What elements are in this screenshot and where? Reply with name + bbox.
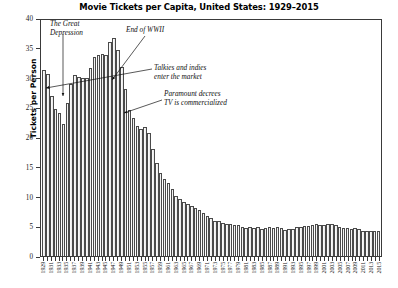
x-tick-mark bbox=[94, 257, 95, 261]
x-tick-mark bbox=[336, 257, 337, 261]
y-axis-title: Tickets per Person bbox=[29, 59, 38, 139]
x-label-slot: 2015 bbox=[377, 262, 381, 288]
x-tick-mark bbox=[250, 257, 251, 261]
x-tick-mark bbox=[133, 257, 134, 261]
y-tick-20: 20 bbox=[0, 133, 40, 143]
x-tick-mark bbox=[219, 257, 220, 261]
x-tick-mark bbox=[332, 257, 333, 261]
x-tick-mark bbox=[273, 257, 274, 261]
chart-title: Movie Tickets per Capita, United States:… bbox=[0, 2, 398, 12]
y-tick-0: 0 bbox=[0, 252, 40, 262]
x-tick-mark bbox=[191, 257, 192, 261]
y-tick-35: 35 bbox=[0, 44, 40, 54]
x-tick-mark bbox=[98, 257, 99, 261]
x-tick-mark bbox=[168, 257, 169, 261]
x-tick-mark bbox=[90, 257, 91, 261]
x-tick-mark bbox=[266, 257, 267, 261]
x-tick-mark bbox=[164, 257, 165, 261]
y-tick-label: 35 bbox=[26, 44, 33, 54]
x-tick-mark bbox=[152, 257, 153, 261]
annotation-paramount-tv: Paramount decrees TV is commercialized bbox=[164, 90, 227, 107]
x-tick-mark bbox=[66, 257, 67, 261]
chart-figure: Movie Tickets per Capita, United States:… bbox=[0, 0, 398, 288]
x-tick-mark bbox=[320, 257, 321, 261]
annotation-talkies-indies: Talkies and indies enter the market bbox=[154, 64, 206, 81]
plot-area bbox=[40, 19, 382, 257]
x-tick-mark bbox=[121, 257, 122, 261]
x-tick-mark bbox=[207, 257, 208, 261]
annotation-end-of-wwii: End of WWII bbox=[126, 26, 164, 35]
x-tick-mark bbox=[254, 257, 255, 261]
x-tick-mark bbox=[371, 257, 372, 261]
x-tick-mark bbox=[187, 257, 188, 261]
y-tick-5: 5 bbox=[0, 222, 40, 232]
x-tick-mark bbox=[82, 257, 83, 261]
x-tick-mark bbox=[355, 257, 356, 261]
x-tick-mark bbox=[285, 257, 286, 261]
x-tick-mark bbox=[203, 257, 204, 261]
x-tick-mark bbox=[172, 257, 173, 261]
x-tick-mark bbox=[47, 257, 48, 261]
x-tick-mark bbox=[215, 257, 216, 261]
x-tick-mark bbox=[352, 257, 353, 261]
bar bbox=[377, 231, 381, 256]
bar-series bbox=[41, 20, 381, 256]
x-tick-mark bbox=[156, 257, 157, 261]
x-tick-mark bbox=[86, 257, 87, 261]
x-tick-mark bbox=[51, 257, 52, 261]
x-tick-mark bbox=[230, 257, 231, 261]
x-tick-mark bbox=[43, 257, 44, 261]
x-tick-mark bbox=[293, 257, 294, 261]
x-tick-mark bbox=[141, 257, 142, 261]
x-tick-mark bbox=[59, 257, 60, 261]
x-tick-mark bbox=[242, 257, 243, 261]
y-tick-label: 0 bbox=[29, 252, 33, 262]
x-tick-mark bbox=[328, 257, 329, 261]
x-tick-mark bbox=[340, 257, 341, 261]
x-tick-mark bbox=[312, 257, 313, 261]
x-tick-mark bbox=[145, 257, 146, 261]
x-tick-mark bbox=[270, 257, 271, 261]
x-tick-label: 2015 bbox=[376, 262, 382, 273]
x-tick-mark bbox=[324, 257, 325, 261]
x-tick-mark bbox=[258, 257, 259, 261]
x-tick-mark bbox=[262, 257, 263, 261]
y-tick-label: 15 bbox=[26, 163, 33, 173]
y-tick-label: 20 bbox=[26, 133, 33, 143]
x-tick-mark bbox=[199, 257, 200, 261]
x-tick-mark bbox=[297, 257, 298, 261]
x-tick-mark bbox=[223, 257, 224, 261]
x-tick-mark bbox=[211, 257, 212, 261]
x-tick-mark bbox=[379, 257, 380, 261]
x-tick-mark bbox=[277, 257, 278, 261]
x-tick-mark bbox=[348, 257, 349, 261]
x-tick-mark bbox=[359, 257, 360, 261]
x-tick-mark bbox=[234, 257, 235, 261]
x-tick-mark bbox=[289, 257, 290, 261]
x-tick-mark bbox=[184, 257, 185, 261]
x-tick-mark bbox=[105, 257, 106, 261]
x-tick-mark bbox=[137, 257, 138, 261]
y-tick-label: 30 bbox=[26, 74, 33, 84]
x-tick-mark bbox=[62, 257, 63, 261]
annotation-great-depression: The Great Depression bbox=[50, 20, 83, 37]
x-tick-mark bbox=[160, 257, 161, 261]
x-tick-mark bbox=[367, 257, 368, 261]
x-tick-mark bbox=[109, 257, 110, 261]
y-tick-15: 15 bbox=[0, 163, 40, 173]
y-tick-30: 30 bbox=[0, 74, 40, 84]
x-tick-mark bbox=[238, 257, 239, 261]
x-tick-mark bbox=[227, 257, 228, 261]
x-tick-mark bbox=[148, 257, 149, 261]
y-tick-label: 5 bbox=[29, 222, 33, 232]
x-tick-mark bbox=[129, 257, 130, 261]
x-axis-tick-labels: 1929193119331935193719391941194319451947… bbox=[40, 262, 382, 288]
x-tick-mark bbox=[281, 257, 282, 261]
x-tick-mark bbox=[125, 257, 126, 261]
x-tick-mark bbox=[55, 257, 56, 261]
x-tick-mark bbox=[176, 257, 177, 261]
x-tick-mark bbox=[316, 257, 317, 261]
x-tick-mark bbox=[113, 257, 114, 261]
y-tick-label: 40 bbox=[26, 14, 33, 24]
y-tick-label: 25 bbox=[26, 103, 33, 113]
